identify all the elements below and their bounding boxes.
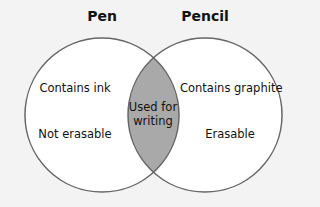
pencil-item-contains-graphite: Contains graphite (180, 81, 280, 95)
overlap-line-1: Used for (118, 100, 188, 114)
pencil-title: Pencil (170, 8, 240, 24)
pen-item-not-erasable: Not erasable (30, 127, 120, 141)
pen-item-contains-ink: Contains ink (30, 81, 120, 95)
pen-title: Pen (72, 8, 132, 24)
pencil-item-erasable: Erasable (180, 127, 280, 141)
overlap-line-2: writing (118, 114, 188, 128)
